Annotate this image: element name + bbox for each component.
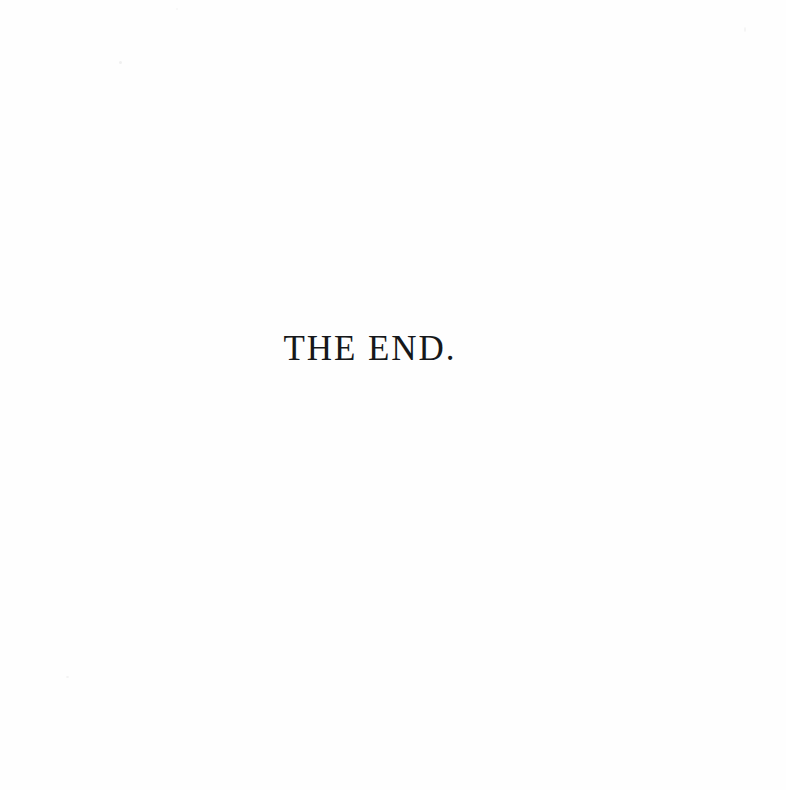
scan-speck-icon [119, 61, 122, 64]
scan-speck-icon [66, 676, 69, 678]
scan-speck-icon [176, 8, 178, 10]
scan-speck-icon [744, 27, 746, 32]
colophon-block: THE END. [0, 331, 740, 366]
scanned-page: THE END. [0, 0, 786, 790]
end-of-book-text: THE END. [284, 331, 457, 366]
